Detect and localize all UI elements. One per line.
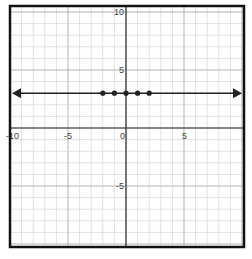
y-tick-label: 10 [114,7,124,17]
y-tick-label: 5 [119,65,124,75]
right-arrow-icon [233,88,242,98]
data-point [100,91,105,96]
y-tick-label: -5 [116,181,124,191]
x-tick-label: -10 [6,131,19,141]
data-point [135,91,140,96]
x-tick-label: -5 [64,131,72,141]
data-point [123,91,128,96]
x-tick-label: 0 [120,131,125,141]
data-point [112,91,117,96]
coordinate-grid-chart: -10-505105-5 [0,0,252,259]
grid-lines [10,6,244,247]
x-tick-label: 5 [182,131,187,141]
data-point [147,91,152,96]
left-arrow-icon [12,88,21,98]
